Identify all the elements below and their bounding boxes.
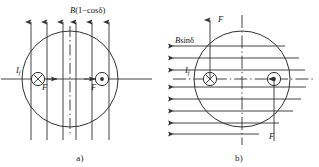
panel-caption-a: a)	[0, 153, 160, 163]
force-label-top-b: F	[218, 15, 223, 24]
current-label-a: If	[16, 66, 21, 75]
conductor-right-a	[95, 72, 108, 85]
force-label-right-a: F	[91, 83, 96, 92]
panel-b-drawing	[159, 0, 319, 167]
force-label-left-a: F	[42, 83, 47, 92]
diagram-panel-b: Bsinδ If F F b)	[159, 0, 319, 167]
field-label-a: B(1−cosδ)	[70, 6, 105, 15]
force-label-bottom-b: F	[269, 132, 274, 141]
current-label-b: If	[185, 66, 190, 75]
field-label-b: Bsinδ	[175, 36, 194, 45]
panel-caption-b: b)	[159, 153, 319, 163]
panel-a-drawing	[0, 0, 160, 167]
diagram-panel-a: B(1−cosδ) If F F a)	[0, 0, 160, 167]
figure-root: B(1−cosδ) If F F a)	[0, 0, 319, 167]
